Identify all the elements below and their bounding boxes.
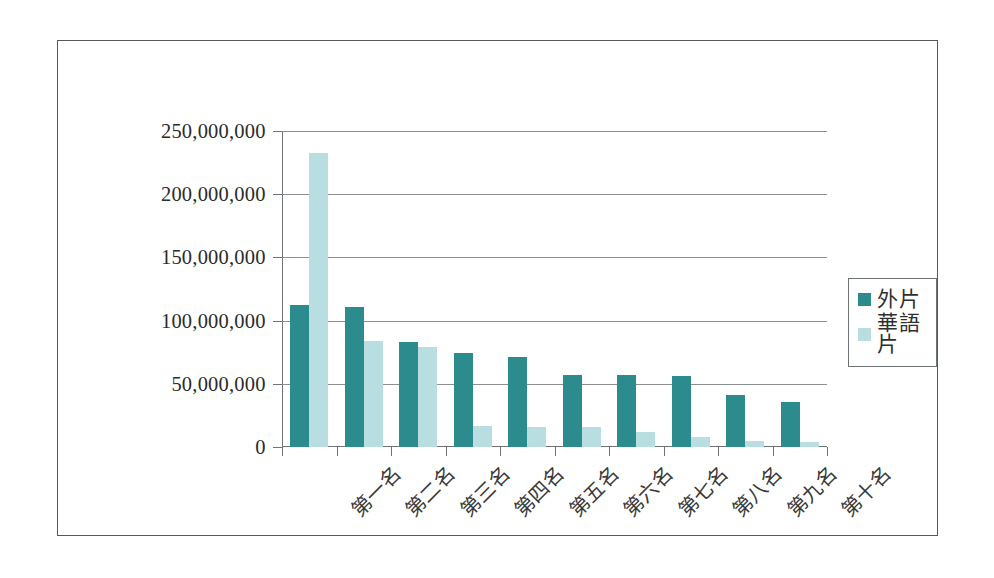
bar[interactable] <box>508 357 527 447</box>
value-axis-label: 200,000,000 <box>161 183 266 206</box>
bar[interactable] <box>527 427 546 447</box>
category-axis-tick <box>718 447 719 456</box>
bar-group[interactable] <box>718 395 773 447</box>
category-axis-tick <box>282 447 283 456</box>
bar[interactable] <box>309 153 328 448</box>
bar-group[interactable] <box>337 307 392 447</box>
bar[interactable] <box>345 307 364 447</box>
category-axis-tick <box>827 447 828 456</box>
legend-item[interactable]: 華語片 <box>858 313 923 355</box>
legend-label: 外片 <box>877 289 921 310</box>
legend-label: 華語片 <box>877 313 923 355</box>
gridline <box>282 131 827 132</box>
value-axis-tick <box>273 194 282 195</box>
bar[interactable] <box>745 441 764 447</box>
bar[interactable] <box>563 375 582 447</box>
category-axis-label: 第十名 <box>834 459 897 522</box>
category-axis-label: 第六名 <box>616 459 679 522</box>
bar[interactable] <box>617 375 636 447</box>
category-axis-tick <box>773 447 774 456</box>
value-axis-label: 150,000,000 <box>161 246 266 269</box>
bar[interactable] <box>726 395 745 447</box>
bar[interactable] <box>418 347 437 447</box>
bar-group[interactable] <box>555 375 610 447</box>
category-axis-label: 第九名 <box>779 459 842 522</box>
category-axis-tick <box>391 447 392 456</box>
bar[interactable] <box>364 341 383 447</box>
bar[interactable] <box>636 432 655 447</box>
bar-group[interactable] <box>664 376 719 447</box>
category-axis-label: 第一名 <box>343 459 406 522</box>
value-axis-tick <box>273 321 282 322</box>
legend-swatch-icon <box>858 328 871 341</box>
legend-swatch-icon <box>858 293 871 306</box>
category-axis-tick <box>446 447 447 456</box>
category-axis-label: 第五名 <box>561 459 624 522</box>
category-axis-tick <box>609 447 610 456</box>
chart-frame: 250,000,000200,000,000150,000,000100,000… <box>57 40 938 536</box>
bar[interactable] <box>672 376 691 447</box>
bar[interactable] <box>781 402 800 448</box>
category-axis-label: 第二名 <box>398 459 461 522</box>
gridline <box>282 194 827 195</box>
bar-group[interactable] <box>773 402 828 448</box>
category-axis-tick <box>337 447 338 456</box>
value-axis-label: 50,000,000 <box>171 372 265 395</box>
bar-group[interactable] <box>446 353 501 447</box>
bar-group[interactable] <box>500 357 555 447</box>
bar[interactable] <box>582 427 601 447</box>
value-axis-tick <box>273 131 282 132</box>
bar[interactable] <box>399 342 418 447</box>
bar-group[interactable] <box>391 342 446 447</box>
category-axis-label: 第三名 <box>452 459 515 522</box>
category-axis-label: 第八名 <box>725 459 788 522</box>
legend-item[interactable]: 外片 <box>858 289 923 310</box>
value-axis-tick <box>273 447 282 448</box>
value-axis-label: 0 <box>255 436 265 459</box>
category-axis-label: 第七名 <box>670 459 733 522</box>
bar[interactable] <box>454 353 473 447</box>
category-axis-label: 第四名 <box>507 459 570 522</box>
bar[interactable] <box>691 437 710 447</box>
category-axis-tick <box>500 447 501 456</box>
gridline <box>282 257 827 258</box>
plot-area: 250,000,000200,000,000150,000,000100,000… <box>282 131 827 447</box>
category-axis-tick <box>555 447 556 456</box>
bar-group[interactable] <box>282 153 337 448</box>
value-axis-tick <box>273 257 282 258</box>
bar[interactable] <box>473 426 492 447</box>
bar-group[interactable] <box>609 375 664 447</box>
bar[interactable] <box>290 305 309 447</box>
value-axis-label: 250,000,000 <box>161 120 266 143</box>
chart-legend: 外片華語片 <box>848 278 937 367</box>
bar[interactable] <box>800 442 819 447</box>
value-axis-tick <box>273 384 282 385</box>
value-axis-label: 100,000,000 <box>161 309 266 332</box>
category-axis-tick <box>664 447 665 456</box>
